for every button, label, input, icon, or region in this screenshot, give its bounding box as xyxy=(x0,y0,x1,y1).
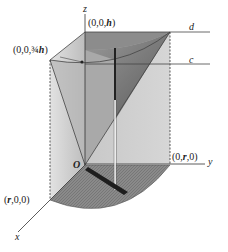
point-x-label-close: ,0,0) xyxy=(11,194,29,205)
point-top-label-open: (0,0, xyxy=(88,17,106,28)
point-quarter-label-open: (0,0,¾ xyxy=(13,44,39,55)
x-axis-label: x xyxy=(15,232,19,242)
point-quarter-label-close: ) xyxy=(44,44,47,55)
y-axis-label: y xyxy=(208,157,212,167)
wedge-diagram xyxy=(0,0,228,252)
point-y-label: (0,r,0) xyxy=(172,152,198,162)
point-y-label-close: ,0) xyxy=(187,151,198,162)
line-d-label: d xyxy=(189,22,194,32)
point-quarter-label: (0,0,¾h) xyxy=(13,45,48,55)
z-axis-label: z xyxy=(83,4,87,14)
origin-label: O xyxy=(73,160,80,170)
point-top-label-close: ) xyxy=(112,17,115,28)
point-x-label: (r,0,0) xyxy=(4,195,30,205)
line-c-label: c xyxy=(189,55,193,65)
point-top-label: (0,0,h) xyxy=(88,18,115,28)
point-y-label-open: (0, xyxy=(172,151,183,162)
